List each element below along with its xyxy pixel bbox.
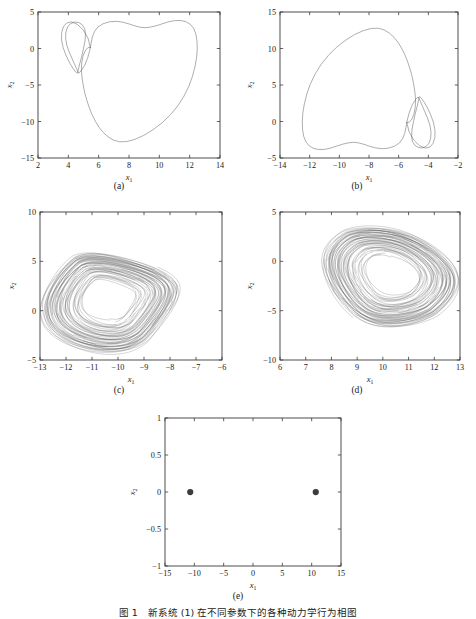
- y-tick-label: 0: [30, 45, 34, 54]
- y-tick-label: −5: [27, 356, 36, 365]
- y-tick-label: 0.5: [151, 451, 161, 460]
- y-tick-label: −10: [263, 356, 276, 365]
- panel-a-plot: 2468101214−15−10−505x1x2: [0, 0, 238, 182]
- panel-a: 2468101214−15−10−505x1x2 (a): [0, 0, 238, 196]
- x-tick-label: 0: [251, 569, 255, 578]
- panel-d-plot: 678910111213−10−505x1x2: [238, 200, 476, 386]
- panel-c: −13−12−11−10−9−8−7−6−50510x1x2 (c): [0, 200, 238, 400]
- y-axis-label: x2: [244, 82, 255, 90]
- y-tick-label: −5: [25, 81, 34, 90]
- x-tick-label: 15: [337, 569, 345, 578]
- panel-c-plot: −13−12−11−10−9−8−7−6−50510x1x2: [0, 200, 238, 386]
- x-tick-label: −5: [219, 569, 228, 578]
- x-tick-label: −10: [333, 161, 346, 170]
- y-tick-label: −10: [21, 118, 34, 127]
- panel-b: −14−12−10−8−6−4−2−5051015x1x2 (b): [238, 0, 476, 196]
- y-tick-label: 5: [32, 257, 36, 266]
- equilibrium-point: [187, 489, 193, 495]
- y-tick-label: 0: [272, 118, 276, 127]
- plot-frame: [280, 12, 458, 158]
- figure-caption: 图 1 新系统 (1) 在不同参数下的各种动力学行为相图: [0, 605, 476, 619]
- y-tick-label: 0: [32, 307, 36, 316]
- x-tick-label: −6: [394, 161, 403, 170]
- panel-e: −15−10−5051015−1−0.500.51x1x2 (e): [119, 404, 357, 604]
- x-tick-label: 8: [127, 161, 131, 170]
- x-tick-label: 13: [456, 363, 464, 372]
- panel-b-plot: −14−12−10−8−6−4−2−5051015x1x2: [238, 0, 476, 182]
- y-axis-label: x2: [6, 283, 17, 291]
- x-tick-label: 4: [66, 161, 70, 170]
- panel-a-tag: (a): [0, 182, 238, 192]
- x-tick-label: 6: [97, 161, 101, 170]
- x-tick-label: −11: [86, 363, 99, 372]
- y-axis-label: x2: [127, 489, 138, 497]
- x-tick-label: 14: [216, 161, 224, 170]
- y-tick-label: −5: [267, 154, 276, 163]
- panel-e-tag: (e): [119, 592, 357, 602]
- x-axis-label: x1: [127, 374, 135, 385]
- y-tick-label: −15: [21, 154, 34, 163]
- x-axis-label: x1: [249, 580, 257, 591]
- x-tick-label: 8: [329, 363, 333, 372]
- plot-frame: [280, 212, 460, 360]
- y-tick-label: 1: [157, 414, 161, 423]
- x-tick-label: 2: [36, 161, 40, 170]
- y-tick-label: −5: [267, 307, 276, 316]
- y-tick-label: 5: [30, 8, 34, 17]
- panel-c-tag: (c): [0, 386, 238, 396]
- x-axis-label: x1: [365, 172, 373, 182]
- y-tick-label: −0.5: [146, 525, 161, 534]
- x-tick-label: 7: [304, 363, 308, 372]
- x-tick-label: −10: [112, 363, 125, 372]
- x-tick-label: 12: [186, 161, 194, 170]
- x-tick-label: 10: [155, 161, 163, 170]
- y-tick-label: 5: [272, 208, 276, 217]
- x-tick-label: 9: [355, 363, 359, 372]
- x-tick-label: 10: [308, 569, 316, 578]
- y-tick-label: 0: [157, 488, 161, 497]
- x-tick-label: −12: [60, 363, 73, 372]
- x-tick-label: −6: [218, 363, 227, 372]
- x-axis-label: x1: [366, 374, 374, 385]
- x-tick-label: −8: [365, 161, 374, 170]
- x-tick-label: 6: [278, 363, 282, 372]
- y-tick-label: 0: [272, 257, 276, 266]
- y-tick-label: 15: [268, 8, 276, 17]
- x-tick-label: 12: [430, 363, 438, 372]
- x-tick-label: −8: [166, 363, 175, 372]
- x-tick-label: −10: [188, 569, 201, 578]
- y-axis-label: x2: [244, 283, 255, 291]
- panel-e-plot: −15−10−5051015−1−0.500.51x1x2: [119, 404, 357, 592]
- y-tick-label: 10: [28, 208, 36, 217]
- x-tick-label: −4: [424, 161, 433, 170]
- x-tick-label: 5: [280, 569, 284, 578]
- x-axis-label: x1: [125, 172, 133, 182]
- x-tick-label: −2: [454, 161, 463, 170]
- y-tick-label: 5: [272, 81, 276, 90]
- plot-frame: [38, 12, 220, 158]
- y-tick-label: −1: [152, 562, 161, 571]
- panel-b-tag: (b): [238, 182, 476, 192]
- y-tick-label: 10: [268, 45, 276, 54]
- equilibrium-point: [313, 489, 319, 495]
- x-tick-label: 11: [405, 363, 413, 372]
- x-tick-label: −12: [303, 161, 316, 170]
- panel-d: 678910111213−10−505x1x2 (d): [238, 200, 476, 400]
- y-axis-label: x2: [4, 82, 15, 90]
- x-tick-label: −9: [140, 363, 149, 372]
- x-tick-label: 10: [379, 363, 387, 372]
- x-tick-label: −7: [192, 363, 201, 372]
- panel-d-tag: (d): [238, 386, 476, 396]
